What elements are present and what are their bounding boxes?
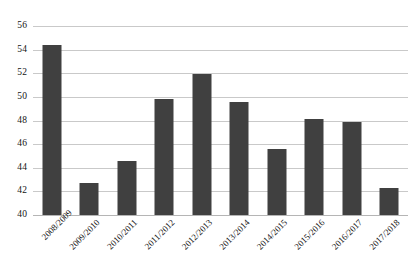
bar[interactable] xyxy=(192,74,211,215)
y-tick-label: 44 xyxy=(17,163,27,173)
bar-slot xyxy=(221,26,259,215)
y-tick-label: 40 xyxy=(17,210,27,220)
bar[interactable] xyxy=(380,188,399,215)
bar-slot xyxy=(108,26,146,215)
bar-slot xyxy=(296,26,334,215)
bar[interactable] xyxy=(342,122,361,215)
x-tick-label: 2008/2009 xyxy=(40,218,64,242)
bar-slot xyxy=(333,26,371,215)
x-axis-tick-labels: 2008/20092009/20102010/20112011/20122012… xyxy=(33,215,408,268)
bar-slot xyxy=(258,26,296,215)
bar-slot xyxy=(146,26,184,215)
plot-area xyxy=(33,26,408,215)
y-tick-label: 46 xyxy=(17,139,27,149)
bar[interactable] xyxy=(230,102,249,215)
bars xyxy=(33,26,408,215)
y-tick-label: 52 xyxy=(17,69,27,79)
bar-slot xyxy=(371,26,409,215)
bar[interactable] xyxy=(42,45,61,215)
y-tick-label: 54 xyxy=(17,45,27,55)
bar[interactable] xyxy=(155,99,174,215)
y-tick-label: 42 xyxy=(17,187,27,197)
y-tick-label: 48 xyxy=(17,116,27,126)
bar-slot xyxy=(183,26,221,215)
bar-slot xyxy=(33,26,71,215)
y-tick-label: 56 xyxy=(17,21,27,31)
bar[interactable] xyxy=(80,183,99,215)
bar[interactable] xyxy=(305,119,324,215)
bar[interactable] xyxy=(117,161,136,215)
bar-chart: 404244464850525456 2008/20092009/2010201… xyxy=(0,0,412,268)
bar-slot xyxy=(71,26,109,215)
y-axis-tick-labels: 404244464850525456 xyxy=(0,26,33,215)
bar[interactable] xyxy=(267,149,286,215)
y-tick-label: 50 xyxy=(17,92,27,102)
